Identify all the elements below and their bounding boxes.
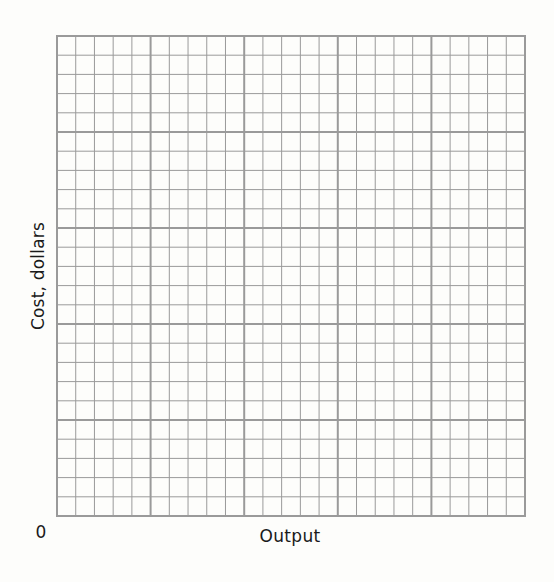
origin-label: 0 [36, 522, 47, 542]
graph-paper-grid [0, 0, 554, 582]
x-axis-label: Output [260, 526, 321, 546]
cost-output-graph: Cost, dollars Output 0 [0, 0, 554, 582]
y-axis-label: Cost, dollars [28, 222, 48, 330]
